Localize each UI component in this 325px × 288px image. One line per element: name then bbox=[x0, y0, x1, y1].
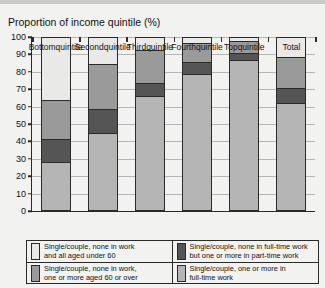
legend-item-label: Single/couple, none in work,one or more … bbox=[44, 265, 138, 282]
legend-swatch-none-full-time-some-part-time bbox=[177, 243, 186, 260]
bar-segment bbox=[183, 74, 211, 210]
y-tick-label: 100 bbox=[2, 32, 26, 42]
y-tick-mark bbox=[28, 175, 32, 177]
y-tick-label: 80 bbox=[2, 67, 26, 77]
chart-title: Proportion of income quintile (%) bbox=[8, 16, 160, 28]
x-axis-label: Total bbox=[282, 43, 300, 53]
y-tick-mark bbox=[28, 123, 32, 125]
bars-layer bbox=[32, 37, 315, 211]
y-tick-mark bbox=[28, 141, 32, 143]
y-tick-label: 20 bbox=[2, 171, 26, 181]
bar-segment bbox=[230, 53, 258, 60]
bar-segment bbox=[136, 50, 164, 83]
stacked-bar bbox=[88, 37, 118, 211]
legend-swatch-none-in-work-under-60 bbox=[31, 243, 40, 260]
legend-swatch-one-or-more-full-time bbox=[177, 265, 186, 282]
y-tick-mark bbox=[28, 88, 32, 90]
x-axis-label: Thirdquintile bbox=[127, 43, 173, 53]
bar-segment bbox=[42, 162, 70, 210]
y-tick-label: 10 bbox=[2, 189, 26, 199]
stacked-bar bbox=[182, 37, 212, 211]
y-tick-label: 90 bbox=[2, 49, 26, 59]
bar-segment bbox=[89, 109, 117, 133]
chart-legend: Single/couple, none in workand all aged … bbox=[26, 240, 319, 284]
legend-item: Single/couple, none in work,one or more … bbox=[27, 263, 173, 284]
bar-segment bbox=[183, 62, 211, 74]
y-tick-label: 0 bbox=[2, 206, 26, 216]
legend-item-label: Single/couple, none in full-time workbut… bbox=[190, 243, 308, 260]
y-tick-mark bbox=[28, 193, 32, 195]
bar-segment bbox=[136, 83, 164, 97]
legend-item-label: Single/couple, none in workand all aged … bbox=[44, 243, 134, 260]
bar-segment bbox=[277, 103, 305, 210]
chart-page: Proportion of income quintile (%) 010203… bbox=[0, 0, 325, 288]
bar-segment bbox=[277, 88, 305, 103]
bar-segment bbox=[277, 57, 305, 88]
bar-segment bbox=[89, 64, 117, 109]
stacked-bar bbox=[229, 37, 259, 211]
y-tick-mark bbox=[28, 106, 32, 108]
bar-segment bbox=[136, 96, 164, 210]
x-tick-mark bbox=[315, 37, 317, 42]
x-tick-mark bbox=[221, 37, 223, 42]
plot-area: 0102030405060708090100 BottomquintileSec… bbox=[31, 37, 315, 212]
x-tick-mark bbox=[268, 37, 270, 42]
y-tick-mark bbox=[28, 71, 32, 73]
y-tick-mark bbox=[28, 54, 32, 56]
bar-segment bbox=[42, 139, 70, 161]
stacked-bar bbox=[41, 37, 71, 211]
y-tick-label: 30 bbox=[2, 154, 26, 164]
y-tick-mark bbox=[28, 210, 32, 212]
bar-segment bbox=[230, 60, 258, 210]
stacked-bar bbox=[276, 37, 306, 211]
stacked-bar bbox=[135, 37, 165, 211]
bar-segment bbox=[42, 100, 70, 140]
y-tick-label: 50 bbox=[2, 119, 26, 129]
legend-item: Single/couple, one or more infull-time w… bbox=[173, 263, 319, 284]
legend-swatch-none-in-work-60-or-over bbox=[31, 265, 40, 282]
y-tick-label: 40 bbox=[2, 136, 26, 146]
y-tick-label: 60 bbox=[2, 102, 26, 112]
bar-segment bbox=[89, 133, 117, 210]
y-tick-mark bbox=[28, 158, 32, 160]
legend-item: Single/couple, none in workand all aged … bbox=[27, 241, 173, 263]
legend-item-label: Single/couple, one or more infull-time w… bbox=[190, 265, 286, 282]
x-axis-label: Topquintile bbox=[224, 43, 265, 53]
y-tick-label: 70 bbox=[2, 84, 26, 94]
x-axis-label: Fourthquintile bbox=[171, 43, 223, 53]
chart-canvas: Proportion of income quintile (%) 010203… bbox=[0, 4, 325, 288]
legend-item: Single/couple, none in full-time workbut… bbox=[173, 241, 319, 263]
x-axis-label: Secondquintile bbox=[75, 43, 131, 53]
